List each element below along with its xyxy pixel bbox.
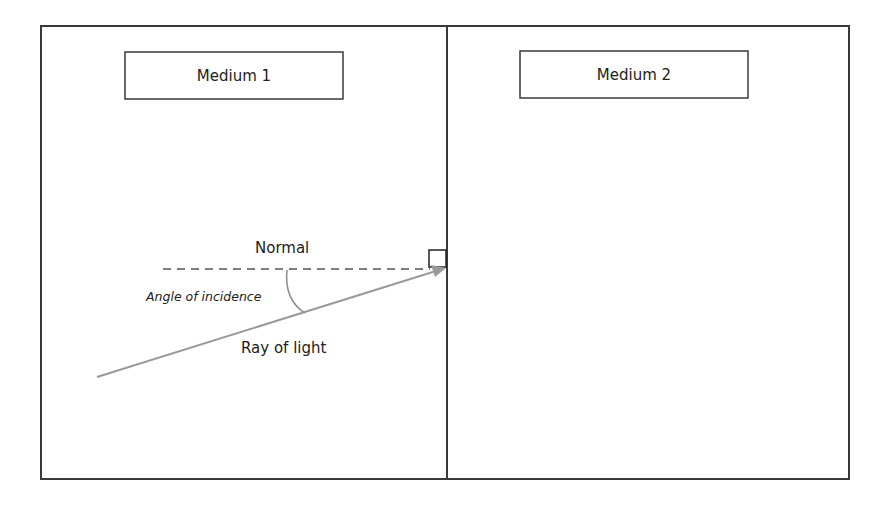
medium-1-label: Medium 1 [125, 67, 343, 85]
normal-label: Normal [255, 239, 309, 257]
light-ray [97, 271, 436, 377]
right-angle-marker [429, 250, 446, 267]
angle-of-incidence-label: Angle of incidence [146, 289, 261, 304]
angle-arc [287, 270, 305, 313]
medium-2-label: Medium 2 [520, 66, 748, 84]
ray-of-light-label: Ray of light [241, 339, 326, 357]
